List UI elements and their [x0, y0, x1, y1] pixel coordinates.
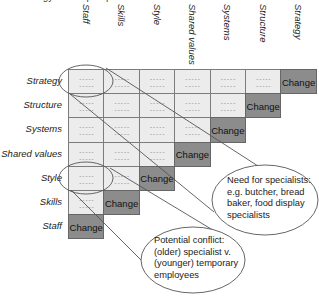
row-header-structure: Structure	[0, 99, 62, 110]
placeholder-dashes: -----	[255, 83, 271, 89]
change-cell: Change	[280, 69, 316, 94]
change-cell: Change	[103, 190, 139, 215]
placeholder-dashes: -----	[114, 83, 130, 89]
matrix-cell: ----------	[68, 93, 104, 118]
callout-text-specialists: Need for specialists: e.g. butcher, brea…	[227, 175, 311, 221]
change-cell: Change	[68, 214, 104, 239]
column-header-label: Staff	[81, 4, 92, 24]
placeholder-dashes: -----	[78, 107, 94, 113]
matrix-cell: ----------	[245, 69, 281, 94]
matrix-cell: ----------	[68, 117, 104, 142]
placeholder-dashes: -----	[78, 204, 94, 210]
change-label: Change	[69, 221, 103, 232]
diagram-caption: Strategy-driven perspective	[16, 0, 138, 2]
placeholder-dashes: -----	[114, 156, 130, 162]
matrix-cell: ----------	[174, 69, 210, 94]
matrix-cell: ----------	[139, 142, 175, 167]
change-cell: Change	[245, 93, 281, 118]
change-cell: Change	[210, 117, 246, 142]
change-label: Change	[175, 149, 209, 160]
callout-line: baker, food display	[227, 198, 311, 210]
callout-line: e.g. butcher, bread	[227, 187, 311, 199]
placeholder-dashes: -----	[78, 83, 94, 89]
placeholder-dashes: -----	[114, 180, 130, 186]
column-header-structure: Structure	[258, 4, 272, 64]
column-header-strategy: Strategy	[293, 4, 307, 64]
placeholder-dashes: -----	[78, 156, 94, 162]
matrix-cell: ----------	[68, 190, 104, 215]
row-header-systems: Systems	[0, 123, 62, 134]
change-label: Change	[246, 100, 280, 111]
matrix-cell: ----------	[103, 117, 139, 142]
change-label: Change	[104, 197, 138, 208]
callout-line: Potential conflict:	[154, 235, 238, 247]
row-header-staff: Staff	[0, 220, 62, 231]
callout-line: Need for specialists:	[227, 175, 311, 187]
matrix-cell: ----------	[103, 93, 139, 118]
column-header-label: Systems	[222, 4, 233, 40]
column-header-shared-values: Shared values	[187, 4, 201, 64]
placeholder-dashes: -----	[220, 107, 236, 113]
callout-line: (older) specialist v.	[154, 247, 238, 259]
placeholder-dashes: -----	[185, 107, 201, 113]
column-header-label: Skills	[116, 4, 127, 26]
placeholder-dashes: -----	[114, 131, 130, 137]
column-header-label: Structure	[258, 4, 269, 43]
matrix-cell: ----------	[103, 69, 139, 94]
matrix-cell: ----------	[210, 69, 246, 94]
matrix-cell: ----------	[139, 93, 175, 118]
placeholder-dashes: -----	[78, 180, 94, 186]
matrix-cell: ----------	[68, 142, 104, 167]
column-header-label: Shared values	[187, 4, 198, 65]
matrix-cell: ----------	[103, 166, 139, 191]
matrix-cell: ----------	[139, 69, 175, 94]
callout-text-conflict: Potential conflict: (older) specialist v…	[154, 235, 238, 281]
matrix-cell: ----------	[68, 166, 104, 191]
placeholder-dashes: -----	[185, 83, 201, 89]
column-header-systems: Systems	[222, 4, 236, 64]
placeholder-dashes: -----	[149, 131, 165, 137]
column-header-label: Style	[152, 4, 163, 25]
change-cell: Change	[174, 142, 210, 167]
change-cell: Change	[139, 166, 175, 191]
callout-line: specialists	[227, 210, 311, 222]
placeholder-dashes: -----	[78, 131, 94, 137]
matrix-cell: ----------	[68, 69, 104, 94]
change-label: Change	[281, 76, 315, 87]
placeholder-dashes: -----	[149, 83, 165, 89]
row-header-shared-values: Shared values	[0, 148, 62, 159]
matrix-cell: ----------	[174, 93, 210, 118]
row-header-strategy: Strategy	[0, 75, 62, 86]
placeholder-dashes: -----	[114, 107, 130, 113]
change-label: Change	[140, 173, 174, 184]
column-header-skills: Skills	[116, 4, 130, 64]
placeholder-dashes: -----	[185, 131, 201, 137]
row-header-skills: Skills	[0, 196, 62, 207]
callout-line: (younger) temporary	[154, 258, 238, 270]
row-header-style: Style	[0, 172, 62, 183]
column-header-staff: Staff	[81, 4, 95, 64]
matrix-cell: ----------	[210, 93, 246, 118]
placeholder-dashes: -----	[149, 156, 165, 162]
column-header-style: Style	[152, 4, 166, 64]
matrix-cell: ----------	[174, 117, 210, 142]
column-header-label: Strategy	[293, 4, 304, 39]
change-label: Change	[211, 124, 245, 135]
placeholder-dashes: -----	[220, 83, 236, 89]
placeholder-dashes: -----	[149, 107, 165, 113]
callout-line: employees	[154, 270, 238, 282]
matrix-cell: ----------	[139, 117, 175, 142]
matrix-cell: ----------	[103, 142, 139, 167]
